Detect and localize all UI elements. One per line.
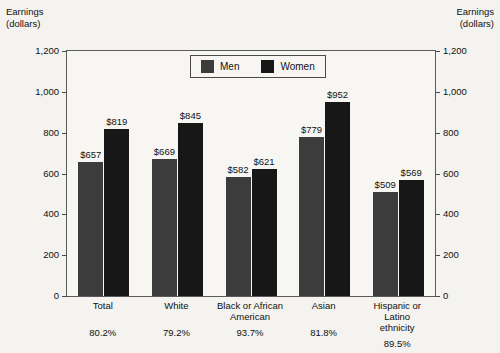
- category-label: White: [140, 300, 214, 311]
- y-tick-right-1000: [435, 92, 440, 93]
- bar-men-0: $657: [78, 162, 103, 296]
- y-tick-label-left-200: 200: [43, 250, 59, 260]
- earnings-ratio-label: 89.5%: [360, 338, 434, 349]
- y-tick-label-right-200: 200: [443, 250, 459, 260]
- legend-label-women: Women: [280, 61, 314, 72]
- y-tick-label-left-800: 800: [43, 128, 59, 138]
- y-tick-right-400: [435, 214, 440, 215]
- category-group-3: Asian81.8%: [287, 300, 361, 338]
- y-tick-right-200: [435, 255, 440, 256]
- y-tick-label-right-0: 0: [443, 291, 448, 301]
- y-tick-label-left-1000: 1,000: [35, 87, 59, 97]
- bar-value-label: $669: [153, 146, 176, 157]
- bar-value-label: $509: [374, 179, 397, 190]
- y-tick-label-left-0: 0: [54, 291, 59, 301]
- y-tick-right-800: [435, 133, 440, 134]
- y-tick-right-600: [435, 174, 440, 175]
- legend-label-men: Men: [220, 61, 239, 72]
- bar-women-3: $952: [325, 102, 350, 296]
- bar-value-label: $819: [105, 116, 128, 127]
- y-axis-title-right: Earnings (dollars): [457, 6, 495, 29]
- category-group-2: Black or African American93.7%: [213, 300, 287, 338]
- y-tick-label-right-400: 400: [443, 209, 459, 219]
- y-tick-label-right-1000: 1,000: [443, 87, 467, 97]
- y-tick-label-left-1200: 1,200: [35, 46, 59, 56]
- category-label: Total: [66, 300, 140, 311]
- y-axis-title-left: Earnings (dollars): [6, 6, 44, 29]
- earnings-ratio-label: 79.2%: [140, 327, 214, 338]
- y-tick-right-1200: [435, 51, 440, 52]
- bars-layer: $657$819$669$845$582$621$779$952$509$569: [67, 51, 435, 296]
- category-group-0: Total80.2%: [66, 300, 140, 338]
- plot-area: 002002004004006006008008001,0001,0001,20…: [66, 50, 436, 297]
- y-tick-label-right-800: 800: [443, 128, 459, 138]
- x-axis-category-labels: Total80.2%White79.2%Black or African Ame…: [66, 300, 436, 350]
- bar-value-label: $582: [226, 164, 249, 175]
- category-label: Asian: [287, 300, 361, 311]
- category-label: Hispanic or Latino ethnicity: [360, 300, 434, 333]
- earnings-ratio-label: 80.2%: [66, 327, 140, 338]
- category-label: Black or African American: [213, 300, 287, 322]
- legend-swatch-men-icon: [201, 60, 214, 73]
- category-group-4: Hispanic or Latino ethnicity89.5%: [360, 300, 434, 349]
- bar-men-1: $669: [152, 159, 177, 296]
- y-tick-label-left-600: 600: [43, 169, 59, 179]
- bar-value-label: $952: [326, 89, 349, 100]
- earnings-bar-chart: Earnings (dollars) Earnings (dollars) 00…: [0, 0, 500, 353]
- bar-value-label: $845: [179, 110, 202, 121]
- bar-value-label: $621: [252, 156, 275, 167]
- earnings-ratio-label: 81.8%: [287, 327, 361, 338]
- y-tick-right-0: [435, 296, 440, 297]
- legend-item-men[interactable]: Men: [201, 60, 239, 73]
- bar-women-2: $621: [252, 169, 277, 296]
- legend-item-women[interactable]: Women: [261, 60, 314, 73]
- earnings-ratio-label: 93.7%: [213, 327, 287, 338]
- y-tick-label-left-400: 400: [43, 209, 59, 219]
- y-tick-label-right-1200: 1,200: [443, 46, 467, 56]
- bar-women-1: $845: [178, 123, 203, 296]
- chart-legend: Men Women: [190, 55, 326, 78]
- y-tick-left-0: [62, 296, 67, 297]
- y-tick-label-right-600: 600: [443, 169, 459, 179]
- bar-women-0: $819: [104, 129, 129, 296]
- bar-men-2: $582: [226, 177, 251, 296]
- bar-value-label: $657: [79, 149, 102, 160]
- bar-value-label: $569: [400, 167, 423, 178]
- bar-men-3: $779: [299, 137, 324, 296]
- bar-women-4: $569: [399, 180, 424, 296]
- category-group-1: White79.2%: [140, 300, 214, 338]
- bar-men-4: $509: [373, 192, 398, 296]
- bar-value-label: $779: [300, 124, 323, 135]
- legend-swatch-women-icon: [261, 60, 274, 73]
